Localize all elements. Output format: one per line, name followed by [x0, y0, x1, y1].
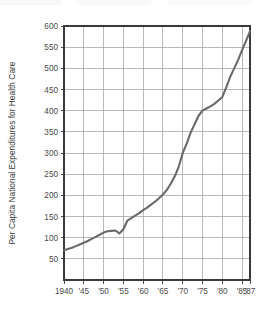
- y-tick-label: 250: [44, 170, 58, 179]
- x-tick-label: '65: [158, 287, 169, 296]
- y-tick-label: 150: [44, 213, 58, 222]
- x-tick-label: '55: [118, 287, 129, 296]
- x-tick-label: '80: [217, 287, 228, 296]
- y-tick-label: 350: [44, 128, 58, 137]
- y-tick-label: 300: [44, 149, 58, 158]
- chart-figure: 50100150200250300350400450500550600 1940…: [0, 0, 273, 312]
- x-axis-tick-labels: 1940'45'50'55'60'65'70'75'80'85'87: [55, 287, 256, 296]
- y-tick-label: 600: [44, 22, 58, 31]
- x-tick-label: '87: [245, 287, 256, 296]
- x-tick-label: '45: [78, 287, 89, 296]
- x-tick-label: '60: [138, 287, 149, 296]
- y-tick-label: 500: [44, 64, 58, 73]
- x-tick-label: '50: [98, 287, 109, 296]
- y-tick-label: 100: [44, 234, 58, 243]
- x-tick-label: '75: [197, 287, 208, 296]
- y-tick-label: 400: [44, 107, 58, 116]
- y-axis-tick-labels: 50100150200250300350400450500550600: [44, 22, 58, 264]
- line-chart: 50100150200250300350400450500550600 1940…: [0, 0, 273, 312]
- y-tick-label: 50: [49, 255, 59, 264]
- y-axis-title: Per Capita National Expenditures for Hea…: [7, 61, 17, 244]
- x-tick-label: '70: [177, 287, 188, 296]
- y-tick-label: 450: [44, 86, 58, 95]
- y-tick-label: 200: [44, 191, 58, 200]
- y-tick-label: 550: [44, 43, 58, 52]
- x-tick-label: 1940: [55, 287, 74, 296]
